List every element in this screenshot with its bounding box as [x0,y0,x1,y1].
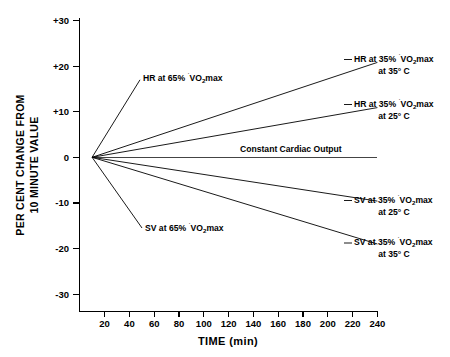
annot-prefix: HR at 65% [143,73,187,83]
annot-suffix: max [206,223,223,233]
x-tick-label: 180 [295,318,311,329]
annotation-sv-35-25c-text: SV at 35% ˙VO2max [354,193,433,206]
annotation-sv-35-35c: SV at 35% ˙VO2max at 35° C [354,235,433,259]
annotation-sv-35-25c: SV at 35% ˙VO2max at 25° C [354,193,433,217]
y-tick-label: +10 [53,106,69,117]
annotation-hr-35-35c-text: HR at 35% ˙VO2max [354,52,434,65]
annot-prefix: SV at 35% [354,195,397,205]
x-tick-label: 160 [270,318,286,329]
annot-suffix: max [416,99,433,109]
series-line-hr-65 [92,80,140,158]
y-axis-title: PER CENT CHANGE FROM 10 MINUTE VALUE [14,94,40,235]
annot-prefix: SV at 35% [354,237,397,247]
y-axis-title-line2: 10 MINUTE VALUE [28,116,40,213]
x-tick-label: 60 [149,318,160,329]
annotation-hr-65: HR at 65% ˙VO2max [143,71,223,84]
x-tick-label: 120 [221,318,237,329]
annot-suffix: max [415,237,432,247]
y-tick-label: -10 [55,197,69,208]
x-tick-label: 140 [245,318,261,329]
x-tick-label: 200 [320,318,336,329]
annotation-sv-65: SV at 65% ˙VO2max [145,221,224,234]
y-tick-label: 0 [64,152,69,163]
x-tick-label: 220 [345,318,361,329]
annot-prefix: SV at 65% [145,223,188,233]
annot-prefix: HR at 35% [354,99,398,109]
annotation-sv-35-25c-line2: at 25° C [378,207,410,217]
x-tick-label: 20 [99,318,110,329]
chart-figure: +30 +20 +10 0 -10 -20 -30 20 40 60 80 10… [0,0,450,357]
x-axis-title: TIME (min) [198,335,258,347]
annotation-constant-cardiac-output: Constant Cardiac Output [240,144,342,154]
y-tick-label: +30 [53,15,69,26]
x-tick-label: 80 [174,318,185,329]
chart-svg: +30 +20 +10 0 -10 -20 -30 20 40 60 80 10… [0,0,450,357]
y-axis-title-line1: PER CENT CHANGE FROM [14,94,26,235]
y-tick-label: -30 [55,289,69,300]
series-line-sv-35-25c [92,157,377,201]
x-tick-label: 240 [369,318,385,329]
annotation-hr-35-35c: HR at 35% ˙VO2max at 35° C [354,52,434,76]
annot-suffix: max [205,73,222,83]
x-tick-label: 40 [124,318,135,329]
annotation-sv-35-35c-text: SV at 35% ˙VO2max [354,235,433,248]
x-tick-label: 100 [196,318,212,329]
annotation-sv-65-text: SV at 65% ˙VO2max [145,221,224,234]
annot-suffix: max [416,54,433,64]
annot-suffix: max [415,195,432,205]
series-line-sv-35-35c [92,157,377,244]
annotation-hr-35-25c-line2: at 25° C [378,111,410,121]
annot-prefix: HR at 35% [354,54,398,64]
annotation-hr-35-35c-line2: at 35° C [378,66,410,76]
y-tick-label: +20 [53,61,69,72]
y-tick-label: -20 [55,243,69,254]
series-line-sv-65 [92,157,142,228]
annotation-hr-35-25c-text: HR at 35% ˙VO2max [354,97,434,110]
annotation-sv-35-35c-line2: at 35° C [378,249,410,259]
annotation-hr-65-text: HR at 65% ˙VO2max [143,71,223,84]
